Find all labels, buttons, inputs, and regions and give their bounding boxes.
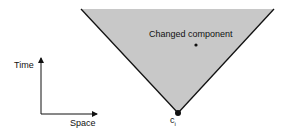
time-axis-label: Time: [14, 61, 34, 70]
changed-component-dot: [194, 43, 197, 46]
influence-cone: [81, 9, 274, 113]
vertex-label-subscript: i: [175, 121, 176, 127]
space-axis-label: Space: [70, 119, 96, 128]
vertex-label: ci: [170, 116, 176, 127]
vertex-point: [175, 110, 181, 116]
diagram-graphics: [0, 0, 285, 134]
light-cone-diagram: Changed component ci Time Space: [0, 0, 285, 134]
changed-component-label: Changed component: [149, 30, 233, 39]
